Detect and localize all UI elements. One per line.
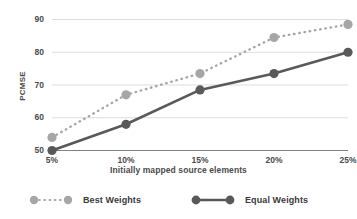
y-axis-tick-label: 80	[22, 48, 44, 57]
data-point-marker[interactable]	[121, 120, 130, 129]
chart-legend: Best Weights Equal Weights	[0, 190, 357, 212]
data-point-marker[interactable]	[343, 20, 352, 29]
legend-swatch-best-weights	[29, 193, 73, 207]
data-point-marker[interactable]	[195, 69, 204, 78]
series-line	[52, 52, 348, 150]
legend-item-best-weights[interactable]: Best Weights	[29, 190, 141, 210]
x-axis-tick-label: 20%	[254, 155, 294, 165]
x-axis-tick-label: 10%	[106, 155, 146, 165]
data-point-marker[interactable]	[269, 69, 278, 78]
pcmse-line-chart: PCMSE 5060708090 5%10%15%20%25% Initiall…	[0, 0, 357, 219]
y-axis-tick-label: 90	[22, 15, 44, 24]
data-point-marker[interactable]	[195, 85, 204, 94]
data-point-marker[interactable]	[47, 133, 56, 142]
x-axis-tick-label: 25%	[328, 155, 357, 165]
y-axis-tick-label: 70	[22, 81, 44, 90]
data-point-marker[interactable]	[269, 33, 278, 42]
legend-label-best-weights: Best Weights	[83, 195, 141, 205]
legend-item-equal-weights[interactable]: Equal Weights	[191, 190, 308, 210]
y-axis-tick-label: 60	[22, 113, 44, 122]
x-axis-title: Initially mapped source elements	[0, 165, 357, 175]
legend-label-equal-weights: Equal Weights	[245, 195, 308, 205]
x-axis-tick-label: 5%	[32, 155, 72, 165]
x-axis-tick-label: 15%	[180, 155, 220, 165]
legend-swatch-equal-weights	[191, 193, 235, 207]
data-point-marker[interactable]	[343, 48, 352, 57]
gridline-group	[52, 20, 348, 151]
data-point-marker[interactable]	[121, 90, 130, 99]
chart-plot-area	[0, 0, 357, 219]
series-line	[52, 24, 348, 137]
